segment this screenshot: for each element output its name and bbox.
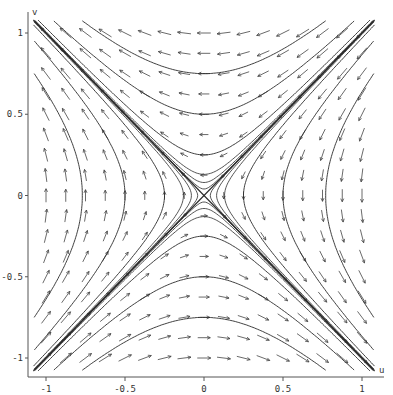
- vector-arrow: [219, 255, 228, 258]
- vector-arrow: [159, 315, 170, 319]
- vector-arrow: [257, 31, 270, 36]
- vector-arrow: [120, 314, 131, 321]
- vector-arrow: [42, 68, 51, 80]
- vector-arrow: [239, 112, 248, 117]
- vector-arrow: [321, 210, 324, 222]
- vector-arrow: [296, 29, 309, 37]
- trajectory-curve: [82, 317, 325, 370]
- vector-arrow: [199, 92, 210, 95]
- trajectory-curve: [283, 41, 374, 350]
- vector-arrow: [140, 274, 149, 280]
- vector-arrow: [83, 149, 87, 160]
- vector-arrow: [178, 31, 191, 34]
- vector-arrow: [63, 129, 68, 141]
- vector-arrow: [124, 211, 127, 221]
- vector-arrow: [180, 133, 189, 136]
- vector-arrow: [360, 229, 364, 242]
- vector-arrow: [103, 150, 107, 160]
- vector-arrow: [261, 171, 264, 180]
- vector-arrow: [257, 335, 269, 340]
- vector-arrow: [220, 153, 227, 157]
- vector-arrow: [120, 293, 129, 300]
- vector-arrow: [102, 110, 109, 119]
- vector-arrow: [319, 271, 326, 282]
- vector-arrow: [120, 70, 131, 77]
- vector-arrow: [139, 315, 150, 320]
- vector-arrow: [318, 292, 327, 302]
- vector-arrow: [44, 229, 48, 242]
- vector-arrow: [361, 209, 364, 222]
- vector-arrow: [317, 49, 328, 59]
- vector-arrow: [319, 109, 326, 120]
- vector-arrow: [100, 334, 111, 342]
- vector-arrow: [239, 274, 248, 279]
- vector-arrow: [337, 28, 348, 38]
- vector-arrow: [237, 31, 250, 35]
- vector-arrow: [65, 210, 68, 223]
- vector-arrow: [237, 336, 249, 340]
- vector-arrow: [143, 212, 146, 221]
- vector-arrow: [122, 252, 128, 261]
- vector-arrow: [178, 356, 191, 359]
- vector-arrow: [242, 212, 246, 219]
- vector-arrow: [359, 128, 364, 141]
- vector-arrow: [278, 90, 287, 97]
- vector-arrow: [341, 189, 344, 202]
- vector-arrow: [198, 336, 211, 339]
- vector-arrow: [200, 133, 209, 136]
- vector-arrow: [301, 190, 304, 201]
- vector-arrow: [300, 150, 304, 160]
- vector-arrow: [163, 172, 167, 179]
- vector-arrow: [82, 271, 89, 282]
- vector-arrow: [301, 170, 304, 181]
- vector-arrow: [338, 291, 346, 302]
- y-axis-label: v: [32, 7, 37, 17]
- vector-arrow: [281, 170, 284, 180]
- vector-arrow: [83, 129, 88, 140]
- vector-arrow: [44, 250, 49, 263]
- vector-arrow: [143, 171, 146, 180]
- vector-arrow: [100, 313, 110, 322]
- vector-arrow: [103, 170, 106, 181]
- vector-arrow: [218, 93, 229, 96]
- vector-arrow: [61, 68, 71, 79]
- vector-arrow: [337, 312, 347, 323]
- vector-arrow: [178, 51, 191, 54]
- vector-arrow: [178, 315, 190, 318]
- vector-arrow: [138, 355, 151, 360]
- vector-arrow: [159, 71, 170, 75]
- vector-arrow: [103, 231, 107, 241]
- vector-arrow: [360, 148, 364, 161]
- vector-arrow: [341, 210, 344, 223]
- vector-arrow: [180, 255, 189, 258]
- trajectory-curve: [204, 20, 373, 174]
- y-tick-label: 0.5: [7, 109, 23, 119]
- vector-arrow: [340, 149, 344, 161]
- vector-arrow: [258, 315, 269, 320]
- vector-arrow: [317, 29, 329, 38]
- vector-arrow: [44, 148, 48, 161]
- vector-arrow: [178, 336, 191, 339]
- y-tick-label: -0.5: [1, 272, 23, 282]
- trajectory-curve: [35, 196, 192, 370]
- vector-arrow: [278, 314, 289, 321]
- vector-arrow: [321, 230, 325, 241]
- vector-arrow: [80, 29, 92, 38]
- trajectory-curve: [82, 21, 325, 74]
- vector-arrow: [64, 189, 67, 202]
- vector-arrow: [358, 311, 367, 323]
- vector-arrow: [302, 211, 305, 222]
- vector-arrow: [338, 88, 346, 99]
- vector-arrow: [238, 72, 249, 76]
- vector-arrow: [158, 335, 170, 339]
- vector-arrow: [278, 70, 289, 77]
- vector-arrow: [159, 92, 169, 96]
- vector-arrow: [217, 357, 230, 360]
- vector-arrow: [359, 270, 365, 283]
- vector-arrow: [81, 89, 90, 99]
- trajectory-curve: [217, 22, 374, 196]
- vector-arrow: [43, 128, 48, 141]
- vector-arrow: [60, 28, 71, 38]
- vector-arrow: [257, 356, 270, 361]
- vector-arrow: [163, 212, 167, 219]
